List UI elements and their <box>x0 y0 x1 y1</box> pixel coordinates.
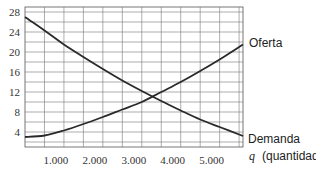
demand-label: Demanda <box>248 132 300 146</box>
plot-frame <box>25 7 243 147</box>
y-tick-label: 4 <box>15 126 21 138</box>
y-tick-label: 28 <box>9 6 21 18</box>
grid <box>25 7 243 147</box>
curves <box>25 17 243 137</box>
y-tick-label: 16 <box>9 66 21 78</box>
supply-demand-chart: 481216202428 1.0002.0003.0004.0005.000 O… <box>0 0 316 176</box>
y-tick-label: 8 <box>15 106 21 118</box>
x-tick-label: 5.000 <box>199 154 224 166</box>
x-axis-label: q (quantidade) <box>249 146 316 163</box>
y-tick-label: 20 <box>9 46 21 58</box>
x-tick-label: 2.000 <box>82 154 107 166</box>
x-axis-ticks: 1.0002.0003.0004.0005.000 <box>44 154 225 166</box>
x-axis-variable: q <box>249 149 255 163</box>
demand-curve <box>25 17 243 136</box>
x-tick-label: 1.000 <box>44 154 69 166</box>
x-tick-label: 3.000 <box>121 154 146 166</box>
supply-label: Oferta <box>249 36 283 50</box>
x-tick-label: 4.000 <box>160 154 185 166</box>
x-axis-text: (quantidade) <box>262 149 316 163</box>
y-tick-label: 12 <box>9 86 20 98</box>
y-tick-label: 24 <box>9 26 21 38</box>
y-axis-ticks: 481216202428 <box>9 6 21 138</box>
